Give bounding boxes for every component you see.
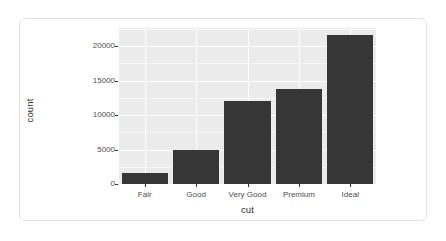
y-tick-label: 0 — [75, 180, 115, 188]
x-tick-mark — [196, 184, 197, 187]
y-tick-label: 20000 — [75, 42, 115, 50]
y-axis-title: count — [24, 66, 35, 156]
bar-very-good[interactable] — [224, 101, 270, 184]
bar-good[interactable] — [173, 150, 219, 184]
x-tick-mark — [248, 184, 249, 187]
y-tick-label: 10000 — [75, 111, 115, 119]
y-tick-mark — [115, 184, 118, 185]
gridline-vertical — [145, 28, 146, 184]
y-tick-mark — [115, 115, 118, 116]
y-tick-label: 5000 — [75, 146, 115, 154]
y-tick-mark — [115, 81, 118, 82]
bar-premium[interactable] — [276, 89, 322, 184]
x-tick-mark — [350, 184, 351, 187]
x-tick-label-ideal: Ideal — [310, 190, 390, 199]
bar-chart: 05000100001500020000 count cut FairGoodV… — [0, 0, 446, 241]
plot-panel — [119, 28, 376, 184]
bar-ideal[interactable] — [327, 35, 373, 184]
y-tick-mark — [115, 46, 118, 47]
y-axis: 05000100001500020000 — [70, 0, 115, 241]
x-axis-title: cut — [119, 204, 376, 215]
x-tick-mark — [299, 184, 300, 187]
y-tick-mark — [115, 150, 118, 151]
y-tick-label: 15000 — [75, 77, 115, 85]
bar-fair[interactable] — [122, 173, 168, 184]
x-tick-mark — [145, 184, 146, 187]
